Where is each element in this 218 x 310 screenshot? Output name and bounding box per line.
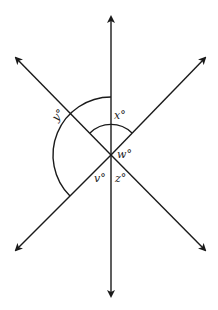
diagonal-line-ne [111, 58, 205, 155]
label-x: x° [114, 109, 126, 122]
label-z: z° [114, 172, 126, 185]
diagonal-line-sw [16, 155, 111, 250]
diagonal-line-se [111, 155, 205, 250]
label-w: w° [117, 148, 132, 161]
diagonal-line-nw [16, 58, 111, 155]
angle-diagram: x° y° w° v° z° [0, 0, 218, 310]
label-v: v° [94, 172, 106, 185]
